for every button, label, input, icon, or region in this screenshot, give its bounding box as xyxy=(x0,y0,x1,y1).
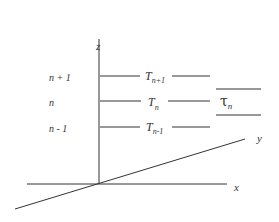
z-axis-label: z xyxy=(95,40,101,52)
level-index-label: n + 1 xyxy=(49,72,71,83)
interval-tau-n: τn xyxy=(216,89,261,115)
temperature-label: Tn xyxy=(148,95,159,112)
layered-temperature-diagram: z x y n + 1 Tn+1 n Tn n - 1 Tn-1 τn xyxy=(0,0,279,222)
level-n-minus-1: n - 1 Tn-1 xyxy=(49,120,210,136)
level-n-plus-1: n + 1 Tn+1 xyxy=(49,69,210,85)
temperature-label: Tn+1 xyxy=(145,69,165,85)
temperature-label: Tn-1 xyxy=(146,120,163,136)
y-axis xyxy=(15,139,245,209)
level-index-label: n - 1 xyxy=(49,123,67,134)
level-n: n Tn xyxy=(49,95,210,112)
y-axis-label: y xyxy=(256,132,262,144)
x-axis-label: x xyxy=(233,181,239,193)
level-index-label: n xyxy=(49,97,54,108)
interval-label: τn xyxy=(220,93,233,111)
